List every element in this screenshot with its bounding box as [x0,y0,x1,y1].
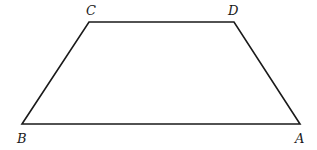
trapezoid-diagram: A B C D [0,0,317,150]
trapezoid-abcd [22,22,300,124]
vertex-label-c: C [86,3,96,18]
vertex-label-a: A [294,131,304,146]
vertex-label-b: B [16,131,27,146]
vertex-label-d: D [227,3,239,18]
